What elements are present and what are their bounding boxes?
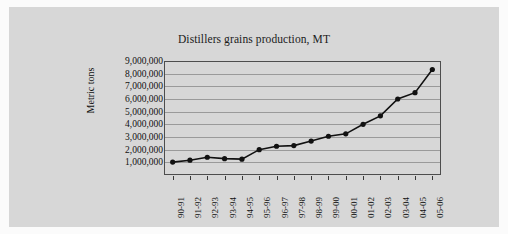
series-line xyxy=(173,69,433,162)
data-point-marker xyxy=(326,134,331,139)
x-axis-tick-label: 00-01 xyxy=(350,197,359,218)
x-axis-tick xyxy=(190,176,191,180)
x-axis-tick xyxy=(346,176,347,180)
x-axis-tick-label: 93-94 xyxy=(229,197,238,218)
x-axis-tick-labels: 90-9191-9292-9393-9494-9595-9696-9797-98… xyxy=(164,176,441,224)
x-axis-tick-label: 91-92 xyxy=(194,197,203,218)
data-point-marker xyxy=(378,113,383,118)
x-axis-tick xyxy=(207,176,208,180)
data-point-marker xyxy=(205,155,210,160)
x-axis-tick xyxy=(415,176,416,180)
y-axis-title-label: Metric tons xyxy=(85,56,96,126)
x-axis-tick-label: 92-93 xyxy=(211,197,220,218)
data-point-marker xyxy=(309,138,314,143)
y-axis-tick-label: 3,000,000 xyxy=(125,132,163,142)
x-axis-tick-label: 01-02 xyxy=(367,197,376,218)
x-axis-tick xyxy=(363,176,364,180)
data-point-marker xyxy=(257,147,262,152)
x-axis-tick xyxy=(380,176,381,180)
x-axis-tick-label: 97-98 xyxy=(298,197,307,218)
data-point-marker xyxy=(274,144,279,149)
data-point-marker xyxy=(412,90,417,95)
x-axis-tick-label: 04-05 xyxy=(419,197,428,218)
chart-title: Distillers grains production, MT xyxy=(9,33,499,45)
x-axis-tick xyxy=(225,176,226,180)
x-axis-tick-label: 98-99 xyxy=(315,197,324,218)
data-point-marker xyxy=(170,159,175,164)
x-axis-tick xyxy=(328,176,329,180)
x-axis-tick-label: 95-96 xyxy=(263,197,272,218)
x-axis-tick xyxy=(259,176,260,180)
y-axis-title: Metric tons xyxy=(85,84,96,98)
y-axis-tick-label: 9,000,000 xyxy=(125,56,163,66)
x-axis-tick-label: 96-97 xyxy=(281,197,290,218)
x-axis-tick-label: 03-04 xyxy=(402,197,411,218)
x-axis-tick xyxy=(173,176,174,180)
y-axis-tick-label: 7,000,000 xyxy=(125,81,163,91)
y-axis-tick-label: 2,000,000 xyxy=(125,145,163,155)
x-axis-tick-label: 90-91 xyxy=(177,197,186,218)
y-axis-tick-label: 5,000,000 xyxy=(125,107,163,117)
x-axis-tick xyxy=(432,176,433,180)
data-series-line xyxy=(164,61,441,175)
y-axis-tick-label: 8,000,000 xyxy=(125,69,163,79)
x-axis-tick xyxy=(242,176,243,180)
x-axis-tick xyxy=(311,176,312,180)
chart-canvas: Distillers grains production, MT Metric … xyxy=(9,7,499,227)
data-point-marker xyxy=(187,158,192,163)
x-axis-tick-label: 99-00 xyxy=(332,197,341,218)
data-point-marker xyxy=(222,156,227,161)
x-axis-tick-label: 02-03 xyxy=(384,197,393,218)
x-axis-tick xyxy=(294,176,295,180)
x-axis-tick xyxy=(398,176,399,180)
chart-screenshot: Distillers grains production, MT Metric … xyxy=(0,0,508,234)
data-point-marker xyxy=(239,157,244,162)
data-point-marker xyxy=(343,131,348,136)
data-point-marker xyxy=(291,143,296,148)
y-axis-tick-labels: 9,000,0008,000,0007,000,0006,000,0005,00… xyxy=(105,55,163,181)
y-axis-tick-label: 4,000,000 xyxy=(125,119,163,129)
x-axis-tick xyxy=(277,176,278,180)
x-axis-tick-label: 05-06 xyxy=(436,197,445,218)
y-axis-tick-label: 6,000,000 xyxy=(125,94,163,104)
y-axis-tick-label: 1,000,000 xyxy=(125,157,163,167)
data-point-marker xyxy=(430,67,435,72)
x-axis-tick-label: 94-95 xyxy=(246,197,255,218)
data-point-marker xyxy=(360,122,365,127)
data-point-marker xyxy=(395,96,400,101)
